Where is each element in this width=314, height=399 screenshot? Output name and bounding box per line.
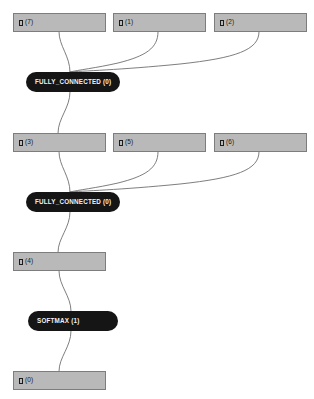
- missing-glyph-icon: [119, 20, 123, 26]
- tensor-node-label: (0): [25, 377, 33, 384]
- missing-glyph-icon: [19, 259, 23, 265]
- graph-edge: [59, 152, 70, 192]
- tensor-node-4[interactable]: (4): [13, 252, 106, 271]
- operator-node-0[interactable]: FULLY_CONNECTED (0): [26, 192, 120, 212]
- operator-node-1[interactable]: SOFTMAX (1): [28, 311, 118, 331]
- tensor-node-label: (2): [226, 19, 234, 26]
- tensor-node-label: (5): [125, 139, 133, 146]
- tensor-node-label: (7): [25, 19, 33, 26]
- missing-glyph-icon: [119, 140, 123, 146]
- tensor-node-label: (4): [25, 258, 33, 265]
- tensor-node-label: (6): [226, 139, 234, 146]
- tensor-node-7[interactable]: (7): [13, 13, 106, 32]
- graph-edge: [58, 212, 70, 252]
- tensor-node-5[interactable]: (5): [113, 133, 206, 152]
- missing-glyph-icon: [220, 140, 224, 146]
- operator-node-label: FULLY_CONNECTED (0): [35, 199, 111, 205]
- graph-edge: [59, 32, 70, 72]
- tensor-node-2[interactable]: (2): [214, 13, 307, 32]
- tensor-node-label: (3): [25, 139, 33, 146]
- tensor-node-label: (1): [125, 19, 133, 26]
- graph-edge: [70, 152, 259, 192]
- tensor-node-0[interactable]: (0): [13, 371, 106, 390]
- missing-glyph-icon: [19, 378, 23, 384]
- missing-glyph-icon: [19, 20, 23, 26]
- tensor-node-3[interactable]: (3): [13, 133, 106, 152]
- graph-edge: [59, 271, 71, 311]
- graph-edge: [70, 32, 259, 72]
- tensor-node-6[interactable]: (6): [214, 133, 307, 152]
- operator-node-0[interactable]: FULLY_CONNECTED (0): [26, 72, 120, 92]
- graph-edge: [58, 92, 70, 133]
- graph-edge: [59, 331, 71, 371]
- graph-edge: [70, 32, 158, 72]
- operator-node-label: FULLY_CONNECTED (0): [35, 79, 111, 85]
- model-graph-canvas: (7)(1)(2)FULLY_CONNECTED (0)(3)(5)(6)FUL…: [0, 0, 314, 399]
- tensor-node-1[interactable]: (1): [113, 13, 206, 32]
- missing-glyph-icon: [19, 140, 23, 146]
- graph-edge: [70, 152, 158, 192]
- missing-glyph-icon: [220, 20, 224, 26]
- operator-node-label: SOFTMAX (1): [37, 318, 79, 324]
